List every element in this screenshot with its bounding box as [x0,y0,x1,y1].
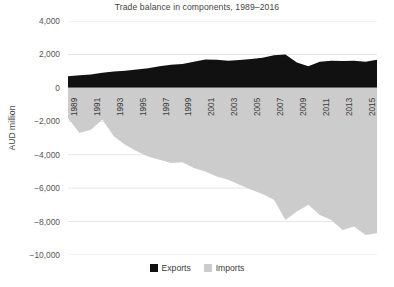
x-axis-tick-label: 2001 [208,98,216,116]
x-axis-tick-label: 2011 [323,98,331,116]
x-axis-tick-label: 2007 [277,98,285,116]
x-axis-tick-labels: 1989199119931995199719992001200320052007… [68,0,388,287]
x-axis-tick-label: 1991 [94,98,102,116]
legend-swatch-icon [150,264,158,272]
legend-item[interactable]: Imports [204,263,245,273]
y-axis-tick-label: 2,000 [14,50,60,58]
x-axis-tick-label: 1989 [71,98,79,116]
chart-legend: ExportsImports [0,263,394,273]
y-axis-tick-label: −2,000 [14,117,60,125]
legend-swatch-icon [204,264,212,272]
legend-label: Exports [162,263,191,273]
legend-item[interactable]: Exports [150,263,191,273]
y-axis-tick-label: 4,000 [14,17,60,25]
x-axis-tick-label: 1997 [163,98,171,116]
y-axis-tick-label: −8,000 [14,218,60,226]
x-axis-tick-label: 1999 [185,98,193,116]
y-axis-tick-labels: 4,0002,0000−2,000−4,000−6,000−8,000−10,0… [12,0,60,287]
chart-container: Trade balance in components, 1989–2016 A… [0,0,394,287]
y-axis-tick-label: −6,000 [14,184,60,192]
x-axis-tick-label: 1995 [140,98,148,116]
x-axis-tick-label: 1993 [117,98,125,116]
x-axis-tick-label: 2003 [231,98,239,116]
x-axis-tick-label: 2015 [369,98,377,116]
y-axis-tick-label: 0 [14,84,60,92]
legend-label: Imports [216,263,245,273]
y-axis-tick-label: −10,000 [14,251,60,259]
x-axis-tick-label: 2009 [300,98,308,116]
y-axis-tick-label: −4,000 [14,151,60,159]
x-axis-tick-label: 2013 [346,98,354,116]
x-axis-tick-label: 2005 [254,98,262,116]
